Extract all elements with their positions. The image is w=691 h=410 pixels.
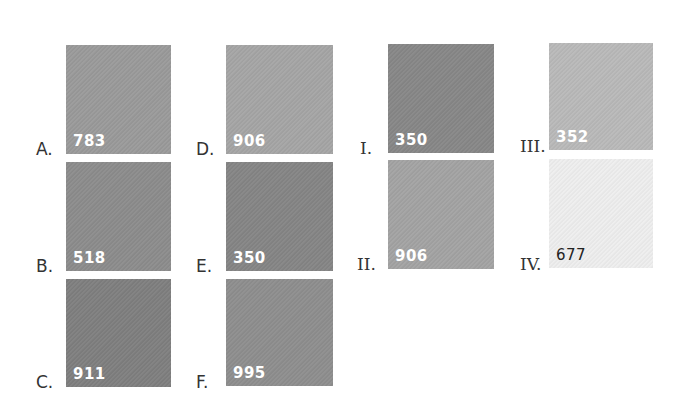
swatch-label-ii: II. (357, 254, 376, 274)
swatch-a[interactable]: 783 (66, 45, 171, 154)
swatch-i[interactable]: 350 (388, 44, 494, 153)
swatch-c[interactable]: 911 (66, 279, 171, 387)
swatch-code-e: 350 (233, 249, 266, 267)
swatch-b[interactable]: 518 (66, 162, 171, 271)
swatch-label-d: D. (196, 139, 215, 159)
swatch-ii[interactable]: 906 (388, 160, 494, 269)
swatch-code-ii: 906 (395, 247, 428, 265)
swatch-code-a: 783 (73, 132, 106, 150)
swatch-label-e: E. (196, 256, 212, 276)
swatch-label-iv: IV. (520, 254, 541, 274)
swatch-code-iii: 352 (556, 128, 589, 146)
swatch-label-i: I. (360, 138, 372, 158)
swatch-iii[interactable]: 352 (549, 43, 653, 150)
swatch-code-iv: 677 (556, 246, 586, 264)
swatch-label-iii: III. (520, 136, 546, 156)
swatch-label-f: F. (196, 372, 208, 392)
swatch-code-i: 350 (395, 131, 428, 149)
swatch-iv[interactable]: 677 (549, 159, 653, 268)
swatch-e[interactable]: 350 (226, 162, 333, 271)
swatch-label-c: C. (36, 372, 53, 392)
swatch-code-f: 995 (233, 364, 266, 382)
swatch-label-b: B. (36, 256, 53, 276)
swatch-label-a: A. (36, 139, 53, 159)
swatch-code-b: 518 (73, 249, 106, 267)
swatch-code-c: 911 (73, 365, 106, 383)
swatch-code-d: 906 (233, 132, 266, 150)
swatch-f[interactable]: 995 (226, 279, 333, 386)
swatch-d[interactable]: 906 (226, 45, 333, 154)
